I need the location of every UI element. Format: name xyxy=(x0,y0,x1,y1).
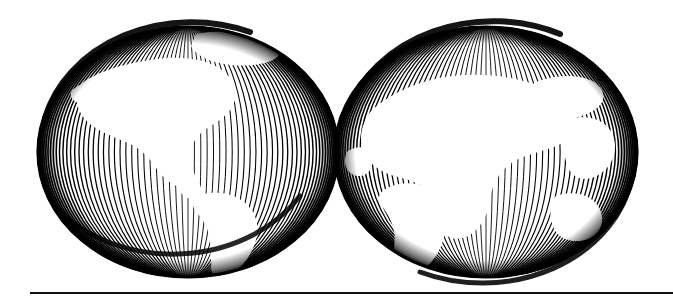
page-root xyxy=(0,0,673,303)
globes-illustration xyxy=(0,0,673,303)
globes-figure xyxy=(0,0,673,303)
caption-separator-rule xyxy=(30,292,673,294)
